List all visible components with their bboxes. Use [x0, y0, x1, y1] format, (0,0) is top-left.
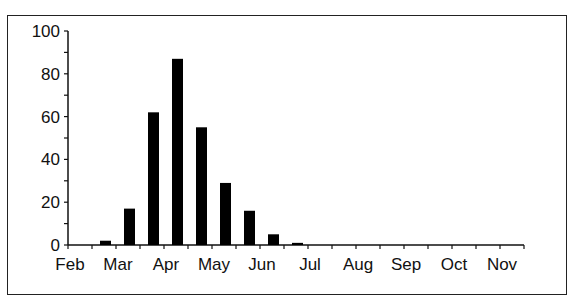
x-tick-label: Oct: [441, 255, 468, 274]
bar: [196, 127, 207, 245]
y-tick-label: 80: [41, 65, 60, 84]
x-tick-label: Aug: [343, 255, 373, 274]
bar: [172, 59, 183, 245]
bar: [244, 211, 255, 245]
bar: [220, 183, 231, 245]
y-tick-label: 20: [41, 193, 60, 212]
x-tick-label: Mar: [103, 255, 133, 274]
bar: [292, 243, 303, 245]
y-tick-label: 40: [41, 150, 60, 169]
x-tick-label: Apr: [153, 255, 180, 274]
bar: [100, 241, 111, 245]
x-tick-label: Sep: [391, 255, 421, 274]
x-tick-label: Jul: [299, 255, 321, 274]
bar: [148, 112, 159, 245]
bar: [124, 209, 135, 245]
x-tick-label: Nov: [487, 255, 518, 274]
y-tick-label: 0: [51, 236, 60, 255]
x-tick-label: Feb: [55, 255, 84, 274]
bar: [268, 234, 279, 245]
x-tick-label: May: [198, 255, 231, 274]
y-tick-label: 100: [32, 22, 60, 41]
y-tick-label: 60: [41, 108, 60, 127]
x-tick-label: Jun: [248, 255, 275, 274]
